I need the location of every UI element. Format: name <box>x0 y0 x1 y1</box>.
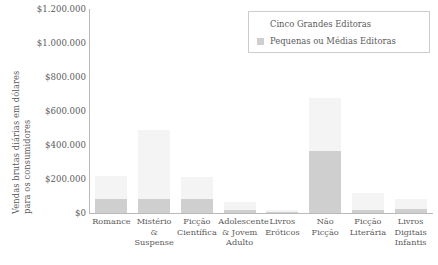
bar-segment-small-publishers <box>138 199 170 213</box>
y-axis-tick-label: $600.000 <box>22 106 86 116</box>
bar-segment-small-publishers <box>95 199 127 213</box>
x-axis-category-label: LivrosDigitaisInfantis <box>389 216 432 248</box>
x-axis-category-label-line: & Jovem <box>218 227 261 238</box>
y-axis-tick-label: $200.000 <box>22 174 86 184</box>
bar-segment-big-publishers <box>95 176 127 200</box>
bar-segment-small-publishers <box>309 151 341 213</box>
x-axis-category-label-line: Eróticos <box>261 227 304 238</box>
x-axis-category-label-line: Livros <box>261 216 304 227</box>
bar-stack <box>352 193 384 213</box>
bar-segment-small-publishers <box>266 212 298 213</box>
x-axis-category-label: Mistério &Suspense <box>133 216 176 248</box>
bar-stack <box>138 130 170 213</box>
x-axis-category-label-line: Infantis <box>389 237 432 248</box>
legend-item-cinco-grandes-editoras: Cinco Grandes Editoras <box>257 18 371 30</box>
x-axis-category-label-line: Ficção <box>304 227 347 238</box>
x-axis-category-label-line: Não <box>304 216 347 227</box>
y-axis-tick-label: $0 <box>22 208 86 218</box>
x-axis-category-label-line: Romance <box>90 216 133 227</box>
bar-chart: Vendas brutas diárias em dólares para os… <box>0 0 438 265</box>
bar-stack <box>395 199 427 213</box>
bar-stack <box>309 98 341 213</box>
x-axis-tick-labels: RomanceMistério &SuspenseFicçãoCientífic… <box>90 216 434 264</box>
y-axis-tick-label: $1.000.000 <box>22 38 86 48</box>
legend-swatch-icon-small-publishers <box>257 38 264 45</box>
x-axis-category-label: FicçãoLiterária <box>347 216 390 237</box>
bar-segment-big-publishers <box>395 199 427 209</box>
bar-segment-small-publishers <box>395 209 427 213</box>
x-axis-category-label: NãoFicção <box>304 216 347 237</box>
x-axis-line <box>89 213 433 214</box>
bar-stack <box>224 202 256 213</box>
x-axis-category-label-line: Digitais <box>389 227 432 238</box>
x-axis-category-label-line: Ficção <box>176 216 219 227</box>
y-axis-tick-label: $400.000 <box>22 140 86 150</box>
x-axis-category-label: LivrosEróticos <box>261 216 304 237</box>
y-axis-tick-label: $800.000 <box>22 72 86 82</box>
x-axis-category-label-line: Ficção <box>347 216 390 227</box>
bar-segment-big-publishers <box>309 98 341 151</box>
x-axis-category-label-line: Literária <box>347 227 390 238</box>
x-axis-category-label: Adolescente& JovemAdulto <box>218 216 261 248</box>
x-axis-category-label: FicçãoCientífica <box>176 216 219 237</box>
bar-stack <box>266 210 298 213</box>
y-axis-tick-label: $1.200.000 <box>22 4 86 14</box>
bar-segment-big-publishers <box>181 177 213 199</box>
legend-swatch-icon-big-publishers <box>257 21 264 28</box>
bar-segment-small-publishers <box>224 210 256 213</box>
chart-legend: Cinco Grandes Editoras Pequenas ou Média… <box>248 11 430 53</box>
y-axis-title-line-1: Vendas brutas diárias em dólares <box>11 71 23 214</box>
bar-segment-small-publishers <box>352 210 384 213</box>
bar-segment-big-publishers <box>224 202 256 210</box>
bar-stack <box>181 177 213 213</box>
x-axis-category-label-line: Livros <box>389 216 432 227</box>
x-axis-category-label-line: Suspense <box>133 237 176 248</box>
x-axis-category-label-line: Adulto <box>218 237 261 248</box>
bar-segment-big-publishers <box>352 193 384 210</box>
bar-segment-small-publishers <box>181 199 213 213</box>
legend-label-big-publishers: Cinco Grandes Editoras <box>270 19 371 29</box>
legend-item-pequenas-ou-medias-editoras: Pequenas ou Médias Editoras <box>257 35 396 47</box>
bar-segment-big-publishers <box>138 130 170 200</box>
legend-label-small-publishers: Pequenas ou Médias Editoras <box>270 36 396 46</box>
x-axis-category-label-line: Adolescente <box>218 216 261 227</box>
x-axis-category-label-line: Mistério & <box>133 216 176 237</box>
x-axis-category-label-line: Científica <box>176 227 219 238</box>
bar-stack <box>95 176 127 213</box>
x-axis-category-label: Romance <box>90 216 133 227</box>
y-axis-tick-labels: $0$200.000$400.000$600.000$800.000$1.000… <box>22 0 86 225</box>
